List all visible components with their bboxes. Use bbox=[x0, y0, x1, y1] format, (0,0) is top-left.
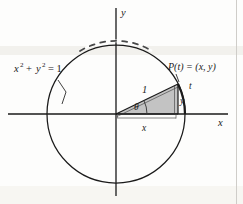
point-label: P(t) = (x, y) bbox=[167, 61, 217, 73]
equation-y-base: y bbox=[35, 63, 41, 74]
page-background bbox=[0, 0, 243, 204]
y-axis-label: y bbox=[120, 7, 126, 18]
equation-plus-sign: + bbox=[26, 63, 32, 74]
angle-theta-label: θ bbox=[134, 102, 139, 112]
equation-x-exponent: 2 bbox=[20, 61, 24, 69]
unit-circle-figure: y x x 2 + y 2 = 1 P(t) = (x, y) 1 θ t y … bbox=[0, 0, 243, 204]
equation-x-base: x bbox=[13, 63, 19, 74]
scan-band-top bbox=[0, 46, 243, 55]
x-axis-label: x bbox=[217, 117, 223, 128]
equation-equals-one: = 1 bbox=[48, 63, 62, 74]
figure-canvas: y x x 2 + y 2 = 1 P(t) = (x, y) 1 θ t y … bbox=[0, 0, 243, 204]
equation-y-exponent: 2 bbox=[42, 61, 46, 69]
hypotenuse-label: 1 bbox=[142, 84, 147, 95]
adjacent-leg-label: x bbox=[141, 123, 147, 133]
opposite-leg-label: y bbox=[179, 96, 185, 106]
scan-band-bottom bbox=[0, 186, 243, 204]
arc-t-label: t bbox=[189, 81, 192, 91]
